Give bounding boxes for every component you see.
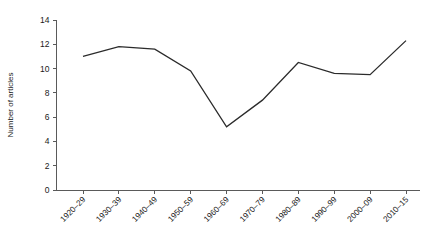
y-axis-ticks	[53, 20, 57, 190]
y-axis-group: 02468101214 Number of articles	[6, 15, 57, 195]
x-axis-group: 1920–291930–391940–491950–591960–691970–…	[56, 190, 420, 224]
x-axis-tick-labels: 1920–291930–391940–491950–591960–691970–…	[59, 195, 411, 224]
x-tick-label: 2000–09	[346, 195, 375, 224]
x-tick-label: 2010–15	[382, 195, 411, 224]
series-line-number-of-articles	[83, 41, 406, 127]
x-tick-label: 1950–59	[166, 195, 195, 224]
plot-area	[83, 41, 406, 127]
x-tick-label: 1930–39	[94, 195, 123, 224]
y-tick-label: 8	[45, 88, 50, 98]
x-tick-label: 1980–89	[274, 195, 303, 224]
y-tick-label: 10	[40, 64, 50, 74]
y-axis-title: Number of articles	[6, 73, 15, 138]
x-tick-label: 1920–29	[59, 195, 88, 224]
y-tick-label: 14	[40, 15, 50, 25]
x-tick-label: 1940–49	[130, 195, 159, 224]
y-tick-label: 6	[45, 112, 50, 122]
x-tick-label: 1960–69	[202, 195, 231, 224]
line-chart: 02468101214 Number of articles 1920–2919…	[0, 0, 438, 246]
x-tick-label: 1970–79	[238, 195, 267, 224]
chart-canvas: 02468101214 Number of articles 1920–2919…	[0, 0, 438, 246]
y-tick-label: 0	[45, 185, 50, 195]
y-axis-tick-labels: 02468101214	[40, 15, 50, 195]
x-tick-label: 1990–99	[310, 195, 339, 224]
y-tick-label: 2	[45, 161, 50, 171]
y-tick-label: 4	[45, 136, 50, 146]
y-tick-label: 12	[40, 39, 50, 49]
